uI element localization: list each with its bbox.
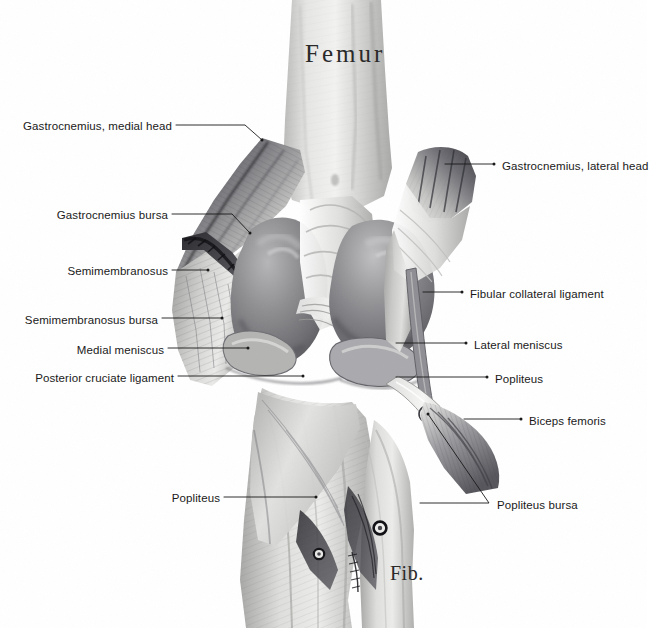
bone-caption-fib: Fib. — [390, 562, 424, 585]
label-lateral-meniscus: Lateral meniscus — [474, 339, 563, 351]
label-semimembranosus: Semimembranosus — [67, 265, 168, 277]
label-fibular-collateral-ligament: Fibular collateral ligament — [470, 288, 604, 300]
label-medial-meniscus: Medial meniscus — [77, 344, 164, 356]
label-posterior-cruciate-ligament: Posterior cruciate ligament — [35, 372, 174, 384]
bone-caption-femur: Femur — [305, 40, 385, 68]
label-popliteus-left: Popliteus — [172, 492, 220, 504]
label-gastrocnemius-medial-head: Gastrocnemius, medial head — [23, 120, 172, 132]
label-semimembranosus-bursa: Semimembranosus bursa — [25, 314, 158, 326]
label-popliteus-right: Popliteus — [495, 373, 543, 385]
label-gastrocnemius-bursa: Gastrocnemius bursa — [57, 209, 168, 221]
label-biceps-femoris: Biceps femoris — [529, 415, 606, 427]
label-gastrocnemius-lateral-head: Gastrocnemius, lateral head — [502, 160, 649, 172]
label-popliteus-bursa: Popliteus bursa — [497, 499, 578, 511]
